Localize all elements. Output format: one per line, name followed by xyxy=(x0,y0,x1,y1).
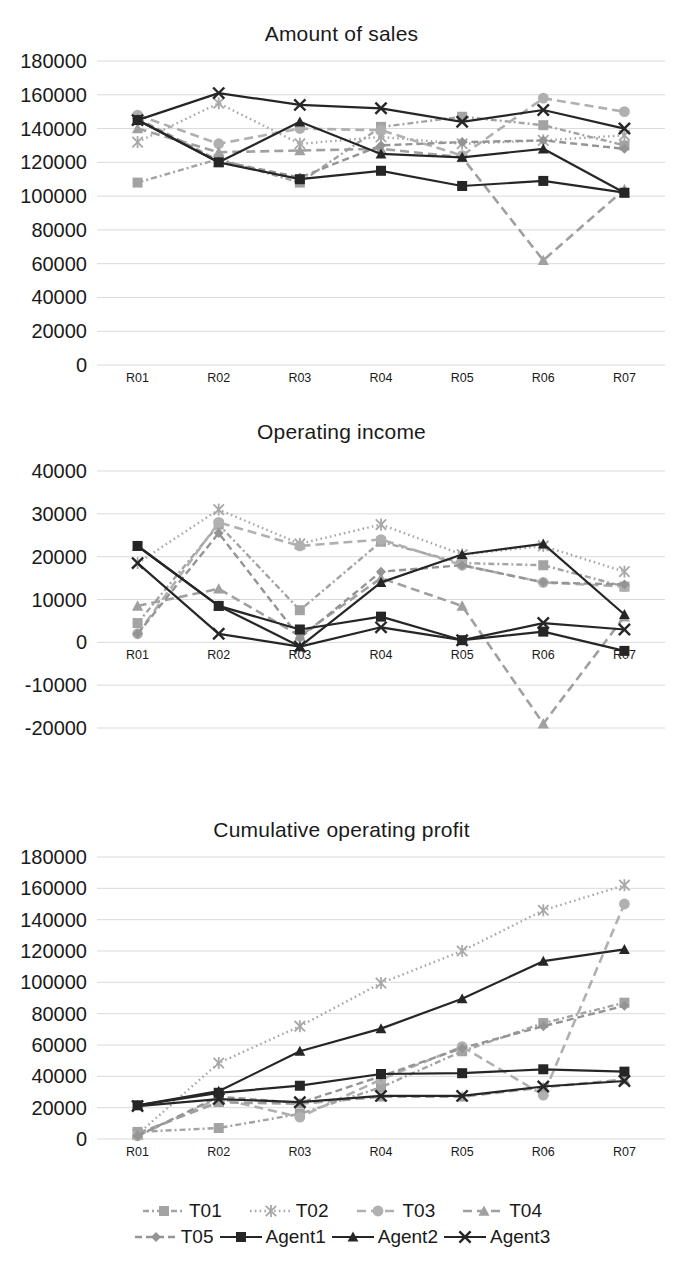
legend-item-Agent2[interactable]: Agent2 xyxy=(330,1226,438,1248)
legend-item-T02[interactable]: T02 xyxy=(248,1200,329,1222)
data-point-circle xyxy=(294,1112,305,1123)
y-axis-tick-label: 180000 xyxy=(20,50,87,72)
data-point-square xyxy=(538,1064,548,1074)
series-line-Agent2 xyxy=(138,544,625,647)
y-axis-tick-label: 140000 xyxy=(20,118,87,140)
legend-key-Agent1 xyxy=(218,1227,264,1247)
data-point-diamond xyxy=(376,567,386,577)
data-point-circle xyxy=(372,1206,383,1217)
x-axis-tick-label: R04 xyxy=(370,371,393,385)
data-point-square xyxy=(159,1206,169,1216)
y-axis-tick-label: 100000 xyxy=(20,971,87,993)
y-axis-tick-label: 20000 xyxy=(31,546,87,568)
legend-label: T05 xyxy=(179,1226,214,1248)
legend-item-T05[interactable]: T05 xyxy=(133,1226,214,1248)
chart-canvas-3: 0200004000060000800001000001200001400001… xyxy=(0,841,683,1181)
data-point-square xyxy=(376,612,386,622)
chart-amount-of-sales: Amount of sales 020000400006000080000100… xyxy=(0,0,683,410)
legend-key-Agent2 xyxy=(330,1227,376,1247)
data-point-circle xyxy=(376,125,387,136)
data-point-square xyxy=(295,174,305,184)
x-axis-tick-label: R02 xyxy=(207,648,230,662)
data-point-circle xyxy=(619,899,630,910)
legend-key-Agent3 xyxy=(442,1227,488,1247)
legend-label: T01 xyxy=(187,1200,222,1222)
y-axis-tick-label: 0 xyxy=(76,631,87,653)
data-point-circle xyxy=(294,541,305,552)
chart-operating-income: Operating income -20000-1000001000020000… xyxy=(0,410,683,810)
legend-key-T01 xyxy=(141,1201,187,1221)
x-axis-tick-label: R04 xyxy=(370,1145,393,1159)
y-axis-tick-label: 180000 xyxy=(20,846,87,868)
legend-key-T04 xyxy=(461,1201,507,1221)
data-point-circle xyxy=(619,106,630,117)
x-axis-tick-label: R01 xyxy=(126,371,149,385)
data-point-asterisk xyxy=(214,97,224,109)
legend-label: Agent1 xyxy=(264,1226,326,1248)
x-axis-tick-label: R07 xyxy=(613,1145,636,1159)
chart-page: Amount of sales 020000400006000080000100… xyxy=(0,0,683,1285)
chart-title-1: Amount of sales xyxy=(0,0,683,45)
legend-label: T04 xyxy=(507,1200,542,1222)
x-axis-tick-label: R04 xyxy=(370,648,393,662)
data-point-square xyxy=(133,178,143,188)
data-point-square xyxy=(538,176,548,186)
y-axis-tick-label: 30000 xyxy=(31,503,87,525)
data-point-asterisk xyxy=(132,136,142,148)
data-point-square xyxy=(214,1123,224,1133)
y-axis-tick-label: 0 xyxy=(76,1128,87,1150)
legend-label: T02 xyxy=(294,1200,329,1222)
data-point-square xyxy=(295,625,305,635)
y-axis-tick-label: 60000 xyxy=(31,1034,87,1056)
y-axis-tick-label: -10000 xyxy=(25,674,87,696)
x-axis-tick-label: R05 xyxy=(451,1145,474,1159)
data-point-asterisk xyxy=(214,504,224,516)
legend-label: T03 xyxy=(401,1200,436,1222)
data-point-square xyxy=(295,605,305,615)
y-axis-tick-label: 20000 xyxy=(31,320,87,342)
y-axis-tick-label: 80000 xyxy=(31,219,87,241)
chart-title-3: Cumulative operating profit xyxy=(0,810,683,841)
legend-key-T03 xyxy=(355,1201,401,1221)
legend-item-T01[interactable]: T01 xyxy=(141,1200,222,1222)
data-point-square xyxy=(376,1069,386,1079)
x-axis-tick-label: R06 xyxy=(532,648,555,662)
y-axis-tick-label: 120000 xyxy=(20,940,87,962)
data-point-triangle xyxy=(294,116,305,126)
x-axis-tick-label: R07 xyxy=(613,371,636,385)
x-axis-tick-label: R03 xyxy=(288,371,311,385)
y-axis-tick-label: 10000 xyxy=(31,589,87,611)
data-point-asterisk xyxy=(619,566,629,578)
data-point-circle xyxy=(376,534,387,545)
legend-item-Agent1[interactable]: Agent1 xyxy=(218,1226,326,1248)
y-axis-tick-label: 0 xyxy=(76,354,87,376)
y-axis-tick-label: 100000 xyxy=(20,185,87,207)
chart-cumulative-operating-profit: Cumulative operating profit 020000400006… xyxy=(0,810,683,1200)
x-axis-tick-label: R01 xyxy=(126,1145,149,1159)
legend-row-2: T05Agent1Agent2Agent3 xyxy=(0,1226,683,1248)
series-line-Agent1 xyxy=(138,546,625,651)
data-point-asterisk xyxy=(295,1020,305,1032)
y-axis-tick-label: 80000 xyxy=(31,1003,87,1025)
y-axis-tick-label: 60000 xyxy=(31,253,87,275)
data-point-circle xyxy=(213,517,224,528)
x-axis-tick-label: R06 xyxy=(532,1145,555,1159)
data-point-triangle xyxy=(457,993,468,1003)
legend-label: Agent2 xyxy=(376,1226,438,1248)
data-point-square xyxy=(457,1068,467,1078)
plot-area-1: 0200004000060000800001000001200001400001… xyxy=(0,45,683,405)
data-point-diamond xyxy=(151,1232,161,1242)
x-axis-tick-label: R03 xyxy=(288,1145,311,1159)
data-point-asterisk xyxy=(376,977,386,989)
y-axis-tick-label: -20000 xyxy=(25,717,87,739)
y-axis-tick-label: 40000 xyxy=(31,1065,87,1087)
legend-item-T04[interactable]: T04 xyxy=(461,1200,542,1222)
legend-item-Agent3[interactable]: Agent3 xyxy=(442,1226,550,1248)
legend-key-T02 xyxy=(248,1201,294,1221)
data-point-diamond xyxy=(457,137,467,147)
data-point-square xyxy=(538,120,548,130)
x-axis-tick-label: R01 xyxy=(126,648,149,662)
data-point-square xyxy=(236,1232,246,1242)
y-axis-tick-label: 120000 xyxy=(20,151,87,173)
legend-item-T03[interactable]: T03 xyxy=(355,1200,436,1222)
